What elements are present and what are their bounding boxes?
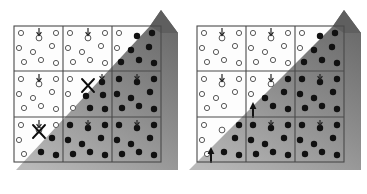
percolation-figure xyxy=(0,0,367,194)
diagram-panel-left xyxy=(0,0,184,194)
panel-right-canvas xyxy=(183,0,367,194)
panel-left-canvas xyxy=(0,0,184,194)
diagram-panel-right xyxy=(183,0,367,194)
